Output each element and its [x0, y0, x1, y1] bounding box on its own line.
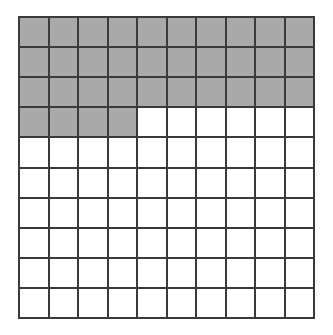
empty-cell — [196, 137, 226, 167]
empty-cell — [19, 258, 49, 288]
empty-cell — [196, 198, 226, 228]
shaded-cell — [285, 17, 315, 47]
empty-cell — [226, 228, 256, 258]
empty-cell — [167, 228, 197, 258]
empty-cell — [78, 228, 108, 258]
empty-cell — [167, 137, 197, 167]
shaded-cell — [78, 77, 108, 107]
empty-cell — [78, 198, 108, 228]
empty-cell — [108, 168, 138, 198]
empty-cell — [49, 137, 79, 167]
shaded-cell — [196, 17, 226, 47]
shaded-cell — [49, 47, 79, 77]
shaded-cell — [49, 107, 79, 137]
shaded-cell — [49, 77, 79, 107]
shaded-cell — [137, 77, 167, 107]
empty-cell — [19, 137, 49, 167]
shaded-cell — [19, 107, 49, 137]
shaded-cell — [226, 47, 256, 77]
empty-cell — [167, 288, 197, 318]
empty-cell — [78, 137, 108, 167]
empty-cell — [285, 137, 315, 167]
empty-cell — [255, 228, 285, 258]
shaded-cell — [137, 17, 167, 47]
empty-cell — [255, 258, 285, 288]
empty-cell — [167, 258, 197, 288]
hundred-grid — [18, 16, 315, 319]
empty-cell — [226, 288, 256, 318]
empty-cell — [137, 137, 167, 167]
empty-cell — [285, 288, 315, 318]
shaded-cell — [255, 47, 285, 77]
empty-cell — [255, 198, 285, 228]
empty-cell — [137, 288, 167, 318]
shaded-cell — [19, 47, 49, 77]
shaded-cell — [108, 77, 138, 107]
shaded-cell — [167, 77, 197, 107]
shaded-cell — [196, 47, 226, 77]
empty-cell — [19, 228, 49, 258]
empty-cell — [196, 258, 226, 288]
empty-cell — [167, 168, 197, 198]
empty-cell — [196, 107, 226, 137]
empty-cell — [285, 228, 315, 258]
empty-cell — [19, 288, 49, 318]
empty-cell — [137, 107, 167, 137]
empty-cell — [137, 258, 167, 288]
empty-cell — [108, 258, 138, 288]
empty-cell — [167, 198, 197, 228]
empty-cell — [108, 137, 138, 167]
shaded-cell — [167, 47, 197, 77]
empty-cell — [49, 168, 79, 198]
empty-cell — [78, 168, 108, 198]
shaded-cell — [78, 17, 108, 47]
empty-cell — [255, 137, 285, 167]
empty-cell — [285, 168, 315, 198]
empty-cell — [49, 258, 79, 288]
empty-cell — [255, 288, 285, 318]
empty-cell — [226, 258, 256, 288]
shaded-cell — [226, 77, 256, 107]
shaded-cell — [19, 77, 49, 107]
empty-cell — [255, 107, 285, 137]
empty-cell — [108, 198, 138, 228]
empty-cell — [137, 198, 167, 228]
shaded-cell — [167, 17, 197, 47]
shaded-cell — [285, 47, 315, 77]
empty-cell — [196, 228, 226, 258]
shaded-cell — [108, 47, 138, 77]
shaded-cell — [285, 77, 315, 107]
shaded-cell — [108, 17, 138, 47]
empty-cell — [108, 228, 138, 258]
empty-cell — [19, 198, 49, 228]
empty-cell — [49, 198, 79, 228]
empty-cell — [167, 107, 197, 137]
empty-cell — [137, 168, 167, 198]
empty-cell — [226, 137, 256, 167]
empty-cell — [226, 168, 256, 198]
shaded-cell — [196, 77, 226, 107]
empty-cell — [285, 258, 315, 288]
shaded-cell — [255, 77, 285, 107]
shaded-cell — [78, 47, 108, 77]
shaded-cell — [255, 17, 285, 47]
empty-cell — [285, 107, 315, 137]
empty-cell — [137, 228, 167, 258]
empty-cell — [226, 198, 256, 228]
empty-cell — [49, 228, 79, 258]
empty-cell — [255, 168, 285, 198]
shaded-cell — [137, 47, 167, 77]
empty-cell — [49, 288, 79, 318]
shaded-cell — [49, 17, 79, 47]
shaded-cell — [78, 107, 108, 137]
empty-cell — [285, 198, 315, 228]
shaded-cell — [108, 107, 138, 137]
empty-cell — [196, 288, 226, 318]
empty-cell — [226, 107, 256, 137]
shaded-cell — [19, 17, 49, 47]
empty-cell — [78, 258, 108, 288]
empty-cell — [78, 288, 108, 318]
shaded-cell — [226, 17, 256, 47]
empty-cell — [196, 168, 226, 198]
empty-cell — [19, 168, 49, 198]
